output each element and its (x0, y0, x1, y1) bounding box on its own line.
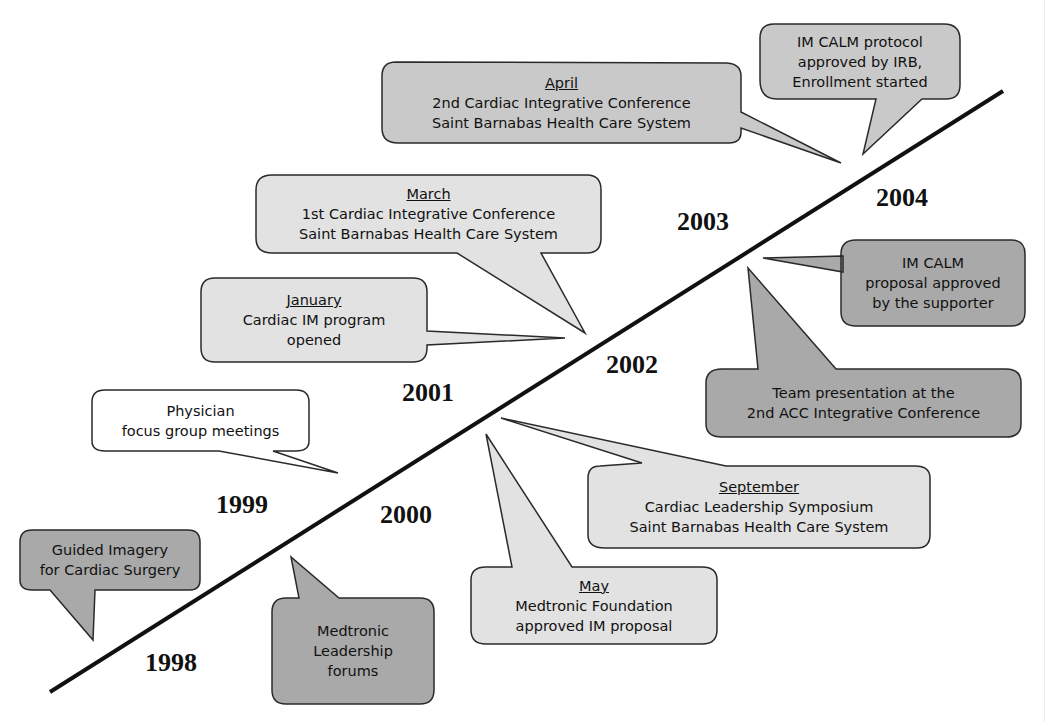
event-line: opened (287, 330, 341, 350)
event-line: Saint Barnabas Health Care System (432, 113, 691, 133)
year-label-2002: 2002 (606, 350, 658, 380)
callout-physician-focus: Physician focus group meetings (92, 390, 309, 451)
event-line: Team presentation at the (772, 383, 954, 403)
event-line: focus group meetings (122, 421, 280, 441)
event-line: 1st Cardiac Integrative Conference (302, 204, 555, 224)
callout-medtronic-leadership: Medtronic Leadership forums (272, 598, 434, 704)
callout-im-calm-proposal: IM CALM proposal approved by the support… (841, 240, 1025, 326)
callout-guided-imagery: Guided Imagery for Cardiac Surgery (20, 530, 200, 590)
event-line: for Cardiac Surgery (40, 560, 181, 580)
callout-cardiac-im-opened: January Cardiac IM program opened (201, 278, 427, 362)
callout-im-calm-protocol: IM CALM protocol approved by IRB, Enroll… (760, 24, 960, 99)
year-label-2004: 2004 (876, 183, 928, 213)
event-line: Physician (166, 401, 234, 421)
event-line: approved by IRB, (798, 52, 922, 72)
event-line: approved IM proposal (516, 616, 673, 636)
callout-leadership-symposium: September Cardiac Leadership Symposium S… (588, 466, 930, 548)
year-label-2001: 2001 (402, 378, 454, 408)
year-label-2003: 2003 (677, 207, 729, 237)
event-line: Saint Barnabas Health Care System (299, 224, 558, 244)
year-label-2000: 2000 (380, 500, 432, 530)
event-line: Medtronic Foundation (515, 596, 673, 616)
event-month: March (406, 184, 450, 204)
event-line: 2nd ACC Integrative Conference (747, 403, 981, 423)
event-line: proposal approved (865, 273, 1000, 293)
callout-team-presentation: Team presentation at the 2nd ACC Integra… (706, 369, 1021, 437)
year-label-1998: 1998 (145, 648, 197, 678)
event-line: Cardiac IM program (243, 310, 386, 330)
event-month: January (287, 290, 342, 310)
event-month: September (719, 477, 799, 497)
event-line: forums (328, 661, 379, 681)
event-month: May (579, 576, 609, 596)
event-line: IM CALM protocol (797, 32, 923, 52)
year-label-1999: 1999 (216, 490, 268, 520)
event-line: Medtronic (317, 621, 389, 641)
callout-first-conference: March 1st Cardiac Integrative Conference… (256, 175, 601, 253)
event-line: IM CALM (902, 253, 964, 273)
callout-second-conference: April 2nd Cardiac Integrative Conference… (382, 62, 741, 143)
event-line: Leadership (313, 641, 393, 661)
event-line: Cardiac Leadership Symposium (645, 497, 874, 517)
event-line: Guided Imagery (52, 540, 168, 560)
event-line: by the supporter (872, 293, 993, 313)
callout-medtronic-foundation: May Medtronic Foundation approved IM pro… (471, 567, 717, 644)
event-line: 2nd Cardiac Integrative Conference (432, 93, 690, 113)
event-line: Enrollment started (792, 72, 927, 92)
event-line: Saint Barnabas Health Care System (630, 517, 889, 537)
event-month: April (545, 73, 578, 93)
